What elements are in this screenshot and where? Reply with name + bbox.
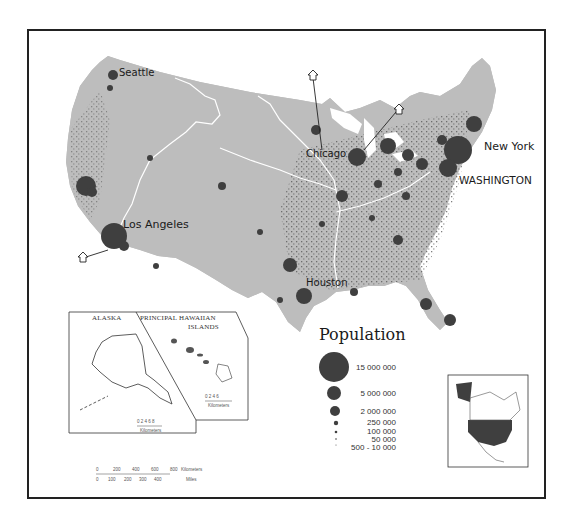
miami-circle bbox=[444, 314, 456, 326]
hawaii-scale-ticks: 0 2 4 6 bbox=[205, 394, 219, 399]
inset-scales bbox=[96, 401, 232, 474]
legend-label-250k: 250 000 bbox=[326, 418, 396, 427]
hawaii-scale-unit: Kilometers bbox=[208, 403, 229, 408]
scale-mi-100: 100 bbox=[108, 477, 116, 482]
scale-km-unit: Kilometers bbox=[181, 467, 202, 472]
scale-mi-200: 200 bbox=[124, 477, 132, 482]
population-map bbox=[0, 0, 576, 526]
city-label-los-angeles: Los Angeles bbox=[123, 218, 189, 231]
scale-km-600: 600 bbox=[151, 467, 159, 472]
contiguous-us bbox=[66, 56, 496, 332]
alaska-title: ALASKA bbox=[92, 314, 122, 322]
hawaii-title-line2: ISLANDS bbox=[188, 323, 219, 331]
scale-km-200: 200 bbox=[113, 467, 121, 472]
legend-label-2m: 2 000 000 bbox=[326, 407, 396, 416]
boston-circle bbox=[466, 116, 482, 132]
scale-km-0: 0 bbox=[96, 467, 99, 472]
alaska-scale-unit: Kilometers bbox=[140, 428, 161, 433]
city-label-chicago: Chicago bbox=[306, 148, 346, 159]
scale-mi-300: 300 bbox=[139, 477, 147, 482]
scale-mi-400: 400 bbox=[154, 477, 162, 482]
legend-title: Population bbox=[319, 325, 405, 344]
locator-inset bbox=[448, 375, 528, 467]
city-label-new-york: New York bbox=[484, 140, 534, 153]
atlanta-circle bbox=[393, 235, 403, 245]
dallas-circle bbox=[283, 258, 297, 272]
alaska-scale-ticks: 0 2 4 6 8 bbox=[137, 419, 155, 424]
hawaii-islands bbox=[171, 339, 232, 383]
scale-mi-unit: Miles bbox=[186, 477, 197, 482]
legend-label-5m: 5 000 000 bbox=[326, 389, 396, 398]
city-label-washington: WASHINGTON bbox=[459, 174, 532, 186]
scale-km-800: 800 bbox=[170, 467, 178, 472]
seattle-circle bbox=[108, 70, 118, 80]
legend-label-500-10k: 500 - 10 000 bbox=[326, 443, 396, 452]
scale-km-400: 400 bbox=[132, 467, 140, 472]
chicago-circle bbox=[348, 148, 366, 166]
city-label-houston: Houston bbox=[306, 277, 348, 288]
hawaii-title-line1: PRINCIPAL HAWAIIAN bbox=[140, 314, 216, 322]
legend-label-15m: 15 000 000 bbox=[326, 363, 396, 372]
washington-circle bbox=[439, 159, 457, 177]
denver-circle bbox=[218, 182, 226, 190]
scale-mi-0: 0 bbox=[96, 477, 99, 482]
houston-circle bbox=[296, 288, 312, 304]
city-label-seattle: Seattle bbox=[119, 67, 154, 78]
